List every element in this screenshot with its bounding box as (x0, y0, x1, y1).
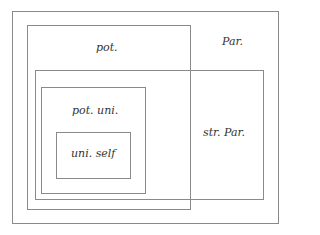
label-str-par: str. Par. (203, 126, 245, 139)
label-pot: pot. (96, 41, 118, 54)
label-par: Par. (222, 35, 243, 48)
label-pot-uni: pot. uni. (72, 104, 118, 117)
label-uni-self: uni. self (71, 147, 115, 160)
